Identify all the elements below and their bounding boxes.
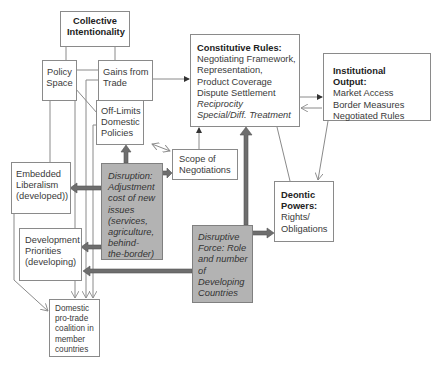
node-development-priorities: Development Priorities (developing) bbox=[19, 228, 82, 281]
node-text: cost of new bbox=[108, 193, 156, 204]
node-text: (developing) bbox=[25, 257, 76, 268]
node-text: Negotiated Rules bbox=[333, 111, 421, 122]
node-text: Embedded bbox=[16, 169, 66, 180]
node-deontic-powers: Deontic Powers: Rights/ Obligations bbox=[274, 181, 334, 242]
thick-arrow-force-deontic bbox=[252, 228, 274, 238]
node-text: member bbox=[55, 335, 94, 345]
node-collective-intentionality: Collective Intentionality bbox=[60, 11, 130, 47]
node-text: countries bbox=[55, 345, 94, 355]
node-disruption: Disruption: Adjustment cost of new issue… bbox=[101, 163, 163, 260]
node-text: Policy bbox=[45, 67, 74, 78]
thick-arrow-force-development bbox=[83, 266, 192, 276]
node-text: Disruption: bbox=[108, 171, 156, 182]
node-text: Obligations bbox=[281, 224, 327, 235]
node-text: Border Measures bbox=[333, 100, 421, 111]
node-text: the-border) bbox=[108, 249, 156, 260]
node-text: pro-trade bbox=[55, 314, 94, 324]
node-text: Off-Limits bbox=[101, 106, 139, 117]
node-text: issues bbox=[108, 205, 156, 216]
node-text: Countries bbox=[198, 288, 247, 299]
node-title: Collective bbox=[67, 16, 123, 27]
node-text: Development bbox=[25, 235, 76, 246]
node-text: Priorities bbox=[25, 246, 76, 257]
thick-arrow-disruption-scope bbox=[162, 168, 172, 178]
node-text: Product Coverage bbox=[197, 77, 293, 88]
node-text: behind- bbox=[108, 238, 156, 249]
node-constitutive-rules: Constitutive Rules: Negotiating Framewor… bbox=[190, 34, 300, 127]
node-text: and number bbox=[198, 254, 247, 265]
node-text-italic: Special/Diff. Treatment bbox=[197, 110, 293, 121]
node-embedded-liberalism: Embedded Liberalism (developed)) bbox=[11, 162, 71, 214]
node-off-limits: Off-Limits Domestic Policies bbox=[96, 100, 144, 145]
node-text: coalition in bbox=[55, 324, 94, 334]
node-title: Deontic bbox=[281, 190, 327, 201]
node-policy-space: Policy Space bbox=[42, 60, 77, 101]
node-text: Policies bbox=[101, 128, 139, 139]
node-title: Institutional Output: bbox=[333, 66, 421, 88]
edge-constitutive-deontic bbox=[277, 127, 290, 181]
node-institutional-output: Institutional Output: Market Access Bord… bbox=[323, 53, 431, 121]
node-text: Rights/ bbox=[281, 212, 327, 223]
node-text: of bbox=[198, 266, 247, 277]
node-text: Scope of bbox=[179, 154, 231, 165]
thick-arrow-force-constitutive bbox=[240, 127, 252, 225]
node-text: Dispute Settlement bbox=[197, 88, 293, 99]
node-text: Disruptive bbox=[198, 232, 247, 243]
node-text: Force: Role bbox=[198, 243, 247, 254]
node-text: agriculture, bbox=[108, 227, 156, 238]
node-scope-of-negotiations: Scope of Negotiations bbox=[172, 149, 238, 180]
edge-offlimits-scope bbox=[152, 144, 170, 151]
node-text: Negotiating Framework, bbox=[197, 54, 293, 65]
node-title: Intentionality bbox=[67, 27, 123, 38]
node-text: Developing bbox=[198, 277, 247, 288]
node-text: Domestic bbox=[101, 117, 139, 128]
node-text: Space bbox=[45, 78, 74, 89]
node-text: Adjustment bbox=[108, 182, 156, 193]
node-title: Powers: bbox=[281, 201, 327, 212]
node-text: Representation, bbox=[197, 65, 293, 76]
node-domestic-coalition: Domestic pro-trade coalition in member c… bbox=[49, 299, 100, 357]
node-text: (services, bbox=[108, 216, 156, 227]
node-text: Liberalism bbox=[16, 180, 66, 191]
node-text: (developed)) bbox=[16, 191, 66, 202]
edge-output-deontic bbox=[318, 121, 328, 180]
node-text: Market Access bbox=[333, 88, 421, 99]
node-text: Gains from bbox=[103, 67, 148, 78]
node-gains-from-trade: Gains from Trade bbox=[98, 60, 153, 101]
node-disruptive-force: Disruptive Force: Role and number of Dev… bbox=[192, 225, 253, 303]
node-title: Constitutive Rules: bbox=[197, 43, 293, 54]
node-text: Domestic bbox=[55, 304, 94, 314]
thick-arrow-disruption-development bbox=[81, 242, 101, 252]
node-text-italic: Reciprocity bbox=[197, 99, 293, 110]
node-text: Trade bbox=[103, 78, 148, 89]
node-text: Negotiations bbox=[179, 165, 231, 176]
thick-arrow-disruption-offlimits bbox=[121, 145, 131, 163]
